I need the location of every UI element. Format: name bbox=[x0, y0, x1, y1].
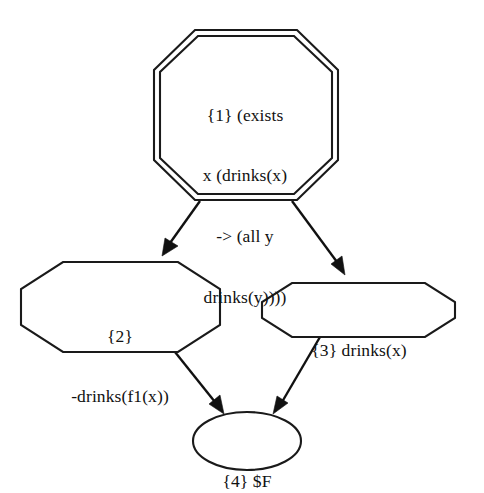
node-1-label-line-1: {1} (exists bbox=[163, 105, 327, 125]
node-1-label-line-2: x (drinks(x) bbox=[163, 165, 327, 185]
node-4-label-line-1: {4} $F bbox=[194, 471, 300, 491]
edge-1-to-3-arrowhead bbox=[331, 256, 345, 275]
node-2-label: {2} -drinks(f1(x)) bbox=[34, 285, 206, 447]
node-4-label: {4} $F bbox=[194, 430, 300, 493]
node-1-label-line-3: -> (all y bbox=[163, 226, 327, 246]
node-2-label-line-1: {2} bbox=[34, 326, 206, 346]
node-3-label: {3} drinks(x) bbox=[272, 299, 446, 400]
node-2-label-line-2: -drinks(f1(x)) bbox=[34, 386, 206, 406]
node-3-label-line-1: {3} drinks(x) bbox=[272, 340, 446, 360]
